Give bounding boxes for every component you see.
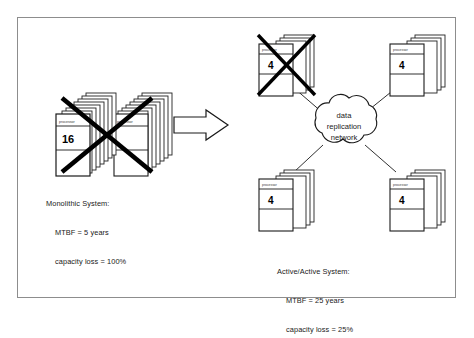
active-active-system-group: processor 4 processor 4 [258,35,445,231]
node-bottom-left-processor-label: processor [262,183,278,187]
node-top-left-count: 4 [268,60,274,71]
node-bottom-right-count: 4 [399,195,405,206]
node-bottom-left: processor 4 [259,170,314,231]
node-bottom-right: processor 4 [390,170,445,231]
active-active-caption-line1: Active/Active System: [277,267,353,277]
node-top-right: processor 4 [390,35,445,96]
active-active-caption-line3: capacity loss = 25% [277,325,353,335]
monolithic-node-count: 16 [62,133,74,145]
cloud-label-line2: replication [327,122,362,131]
monolithic-caption-line1: Monolithic System: [46,199,126,209]
node-top-left: processor 4 [258,35,315,96]
data-replication-network-cloud: data replication network [315,94,377,142]
node-bottom-right-processor-label: processor [393,183,409,187]
node-top-right-processor-label: processor [393,48,409,52]
monolithic-processor-label: processor [59,120,76,124]
cloud-label-line1: data [337,111,353,120]
active-active-caption-line2: MTBF = 25 years [277,296,353,306]
monolithic-caption-line2: MTBF = 5 years [46,228,126,238]
monolithic-system-group: processor 16 processor [56,93,172,176]
monolithic-system-caption: Monolithic System: MTBF = 5 years capaci… [46,180,126,286]
transition-arrow-icon [174,110,228,140]
monolithic-caption-line3: capacity loss = 100% [46,257,126,267]
active-active-system-caption: Active/Active System: MTBF = 25 years ca… [277,248,353,338]
node-top-right-count: 4 [399,60,405,71]
node-bottom-left-count: 4 [268,195,274,206]
cloud-label-line3: network [331,133,358,142]
